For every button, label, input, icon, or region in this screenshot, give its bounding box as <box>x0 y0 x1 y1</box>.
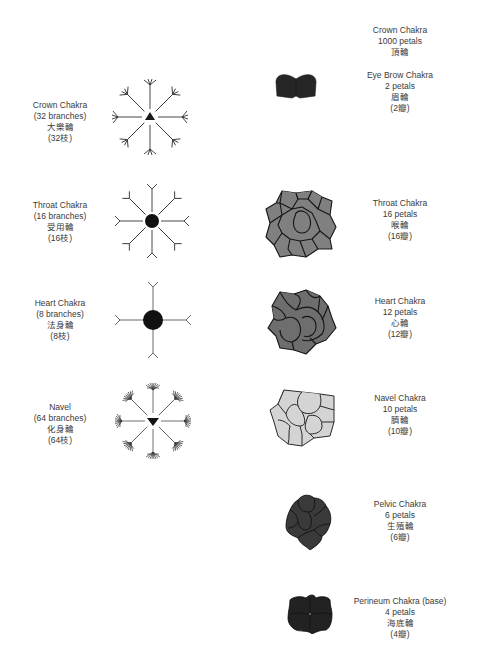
label-chinese: 臍輪 <box>355 415 445 426</box>
heart-branches-icon <box>113 280 193 360</box>
label-name: Throat Chakra <box>20 200 100 211</box>
throat-lotus-icon <box>264 187 340 259</box>
throat-petals-label: Throat Chakra 16 petals 喉輪 (16瓣) <box>355 198 445 242</box>
heart-lotus <box>266 288 338 356</box>
label-name: Crown Chakra <box>355 25 445 36</box>
label-chinese: 大樂輪 <box>20 122 100 133</box>
label-chinese-count: (12瓣) <box>355 329 445 340</box>
label-name: Eye Brow Chakra <box>355 70 445 81</box>
crown-branches-diagram <box>110 77 190 157</box>
label-chinese: 喉輪 <box>355 220 445 231</box>
perineum-petals-label: Perineum Chakra (base) 4 petals 海底輪 (4瓣) <box>345 596 455 640</box>
eyebrow-lotus <box>274 72 318 100</box>
eyebrow-lotus-icon <box>274 72 318 100</box>
label-count: (8 branches) <box>20 309 100 320</box>
navel-lotus <box>268 386 340 448</box>
label-chinese: 頂輪 <box>355 47 445 58</box>
navel-lotus-icon <box>268 386 340 448</box>
label-chinese-count: (32枝) <box>20 133 100 144</box>
label-count: (32 branches) <box>20 111 100 122</box>
label-name: Throat Chakra <box>355 198 445 209</box>
label-chinese-count: (8枝) <box>20 331 100 342</box>
label-count: 6 petals <box>355 510 445 521</box>
label-chinese-count: (16枝) <box>20 233 100 244</box>
label-count: 10 petals <box>355 404 445 415</box>
heart-lotus-icon <box>266 288 338 356</box>
navel-petals-label: Navel Chakra 10 petals 臍輪 (10瓣) <box>355 393 445 437</box>
navel-branches-diagram <box>113 381 193 461</box>
label-count: 1000 petals <box>355 36 445 47</box>
label-name: Navel <box>20 402 100 413</box>
label-count: 4 petals <box>345 607 455 618</box>
label-count: 2 petals <box>355 81 445 92</box>
throat-branches-icon <box>112 181 192 261</box>
label-name: Heart Chakra <box>355 296 445 307</box>
label-chinese-count: (6瓣) <box>355 532 445 543</box>
label-chinese-count: (16瓣) <box>355 231 445 242</box>
navel-branches-label: Navel (64 branches) 化身輪 (64枝) <box>20 402 100 446</box>
label-count: (64 branches) <box>20 413 100 424</box>
crown-branches-icon <box>110 77 190 157</box>
label-name: Navel Chakra <box>355 393 445 404</box>
label-count: 12 petals <box>355 307 445 318</box>
label-chinese: 眉輪 <box>355 92 445 103</box>
label-name: Heart Chakra <box>20 298 100 309</box>
label-chinese-count: (2瓣) <box>355 103 445 114</box>
label-chinese: 心輪 <box>355 318 445 329</box>
label-count: (16 branches) <box>20 211 100 222</box>
label-chinese: 法身輪 <box>20 320 100 331</box>
label-name: Perineum Chakra (base) <box>345 596 455 607</box>
label-chinese-count: (10瓣) <box>355 426 445 437</box>
pelvic-lotus-icon <box>284 494 332 550</box>
perineum-lotus-icon <box>286 594 334 634</box>
throat-branches-label: Throat Chakra (16 branches) 受用輪 (16枝) <box>20 200 100 244</box>
heart-branches-diagram <box>113 280 193 360</box>
heart-branches-label: Heart Chakra (8 branches) 法身輪 (8枝) <box>20 298 100 342</box>
label-count: 16 petals <box>355 209 445 220</box>
label-chinese: 化身輪 <box>20 424 100 435</box>
heart-petals-label: Heart Chakra 12 petals 心輪 (12瓣) <box>355 296 445 340</box>
label-name: Crown Chakra <box>20 100 100 111</box>
label-chinese: 受用輪 <box>20 222 100 233</box>
crown-petals-label: Crown Chakra 1000 petals 頂輪 <box>355 25 445 58</box>
label-chinese-count: (64枝) <box>20 435 100 446</box>
label-chinese: 海底輪 <box>345 618 455 629</box>
pelvic-petals-label: Pelvic Chakra 6 petals 生殖輪 (6瓣) <box>355 499 445 543</box>
pelvic-lotus <box>284 494 332 550</box>
label-name: Pelvic Chakra <box>355 499 445 510</box>
eyebrow-petals-label: Eye Brow Chakra 2 petals 眉輪 (2瓣) <box>355 70 445 114</box>
throat-lotus <box>264 187 340 259</box>
perineum-lotus <box>286 594 334 634</box>
throat-branches-diagram <box>112 181 192 261</box>
crown-branches-label: Crown Chakra (32 branches) 大樂輪 (32枝) <box>20 100 100 144</box>
label-chinese: 生殖輪 <box>355 521 445 532</box>
label-chinese-count: (4瓣) <box>345 629 455 640</box>
navel-branches-icon <box>113 381 193 461</box>
